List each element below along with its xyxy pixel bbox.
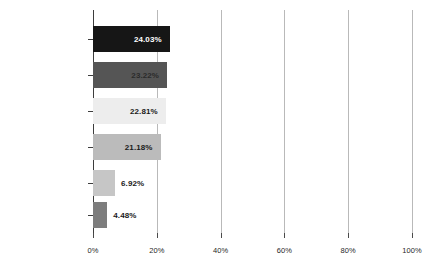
bar-over-5-years[interactable]: 6.92% (93, 170, 115, 196)
x-tick-20 (157, 233, 158, 238)
bar-under-6-months[interactable]: 24.03% (93, 26, 170, 52)
bar-chart: 0% 20% 40% 60% 80% 100% Under 6 months 2… (0, 0, 432, 267)
x-tick-100 (412, 233, 413, 238)
bar-value-label: 4.48% (113, 211, 136, 220)
x-tick-80 (348, 233, 349, 238)
bar-value-label: 21.18% (125, 143, 153, 152)
gridline-100 (412, 10, 413, 233)
gridline-60 (284, 10, 285, 233)
x-tick-label-0: 0% (87, 246, 98, 255)
bar-1-2-years[interactable]: 22.81% (93, 98, 166, 124)
x-tick-label-40: 40% (213, 246, 228, 255)
bar-value-label: 22.81% (130, 107, 158, 116)
x-tick-label-60: 60% (277, 246, 292, 255)
bar-other[interactable]: 4.48% (93, 202, 107, 228)
plot-area: 0% 20% 40% 60% 80% 100% Under 6 months 2… (93, 10, 412, 233)
bar-1-year[interactable]: 23.22% (93, 62, 167, 88)
gridline-80 (348, 10, 349, 233)
x-tick-label-20: 20% (149, 246, 164, 255)
x-tick-60 (284, 233, 285, 238)
bar-2-5-years[interactable]: 21.18% (93, 134, 161, 160)
x-tick-label-80: 80% (341, 246, 356, 255)
x-tick-40 (221, 233, 222, 238)
x-tick-label-100: 100% (402, 246, 422, 255)
bar-value-label: 24.03% (134, 35, 162, 44)
x-tick-0 (93, 233, 94, 238)
gridline-40 (221, 10, 222, 233)
bar-value-label: 6.92% (121, 179, 144, 188)
bar-value-label: 23.22% (131, 71, 159, 80)
